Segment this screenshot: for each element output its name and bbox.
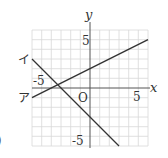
- x-tick-neg5: -5: [33, 74, 45, 88]
- partial-paren-mark: ): [0, 134, 2, 148]
- line-i: [32, 59, 119, 146]
- coordinate-graph: y x O 5 -5 5 -5 イ ア: [0, 0, 168, 158]
- x-axis-label: x: [150, 80, 158, 95]
- origin-label: O: [78, 91, 88, 105]
- line-a-label: ア: [18, 91, 30, 105]
- x-tick-5: 5: [133, 90, 141, 104]
- y-tick-5: 5: [82, 34, 90, 48]
- line-i-label: イ: [18, 53, 30, 67]
- y-axis-label: y: [84, 7, 93, 22]
- y-tick-neg5: -5: [72, 134, 84, 148]
